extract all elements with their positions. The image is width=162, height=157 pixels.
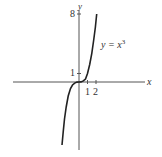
x-axis-label: x [146, 76, 152, 87]
curve-equation-exponent: 3 [122, 38, 126, 46]
x-tick-label-1: 1 [85, 86, 90, 97]
cubic-graph: y 8 1 1 2 x y = x3 [0, 0, 162, 157]
x-tick-label-2: 2 [93, 86, 98, 97]
y-tick-label-1: 1 [70, 67, 75, 78]
y-tick-label-8: 8 [70, 8, 75, 19]
curve-equation-label: y = x3 [100, 38, 126, 50]
curve-equation-base: y = x [100, 39, 122, 50]
y-axis-label: y [77, 1, 82, 11]
